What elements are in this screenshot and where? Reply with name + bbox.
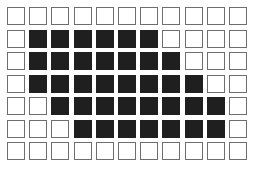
filled-cell [29,30,47,48]
pixel-grid [7,7,247,160]
filled-cell [96,97,114,115]
filled-cell [185,97,203,115]
filled-cell [118,30,136,48]
filled-cell [51,75,69,93]
empty-cell [207,75,225,93]
empty-cell [7,97,25,115]
filled-cell [74,120,92,138]
empty-cell [185,30,203,48]
empty-cell [207,52,225,70]
empty-cell [229,7,247,25]
filled-cell [118,75,136,93]
empty-cell [229,75,247,93]
filled-cell [96,75,114,93]
filled-cell [118,52,136,70]
empty-cell [51,142,69,160]
empty-cell [162,142,180,160]
filled-cell [51,97,69,115]
filled-cell [162,120,180,138]
empty-cell [51,7,69,25]
empty-cell [162,30,180,48]
empty-cell [7,52,25,70]
filled-cell [96,30,114,48]
empty-cell [118,142,136,160]
filled-cell [51,52,69,70]
filled-cell [140,97,158,115]
empty-cell [229,52,247,70]
empty-cell [96,7,114,25]
empty-cell [7,142,25,160]
empty-cell [207,30,225,48]
caption-cropped: — — — — — — — — [0,181,254,188]
filled-cell [162,52,180,70]
empty-cell [51,120,69,138]
empty-cell [74,142,92,160]
filled-cell [51,30,69,48]
filled-cell [118,97,136,115]
filled-cell [74,75,92,93]
filled-cell [140,120,158,138]
empty-cell [207,7,225,25]
filled-cell [140,52,158,70]
empty-cell [185,52,203,70]
filled-cell [96,52,114,70]
empty-cell [29,120,47,138]
filled-cell [207,97,225,115]
empty-cell [229,142,247,160]
filled-cell [207,120,225,138]
empty-cell [7,7,25,25]
empty-cell [7,75,25,93]
empty-cell [185,142,203,160]
empty-cell [140,7,158,25]
empty-cell [229,30,247,48]
empty-cell [74,7,92,25]
empty-cell [229,97,247,115]
empty-cell [118,7,136,25]
filled-cell [118,120,136,138]
filled-cell [74,52,92,70]
filled-cell [162,75,180,93]
empty-cell [162,7,180,25]
empty-cell [96,142,114,160]
filled-cell [162,97,180,115]
empty-cell [29,142,47,160]
filled-cell [140,75,158,93]
filled-cell [74,30,92,48]
filled-cell [29,52,47,70]
empty-cell [207,142,225,160]
empty-cell [7,120,25,138]
empty-cell [140,142,158,160]
empty-cell [7,30,25,48]
filled-cell [185,75,203,93]
empty-cell [29,7,47,25]
filled-cell [185,120,203,138]
filled-cell [29,75,47,93]
empty-cell [29,97,47,115]
filled-cell [74,97,92,115]
filled-cell [96,120,114,138]
filled-cell [140,30,158,48]
empty-cell [185,7,203,25]
empty-cell [229,120,247,138]
